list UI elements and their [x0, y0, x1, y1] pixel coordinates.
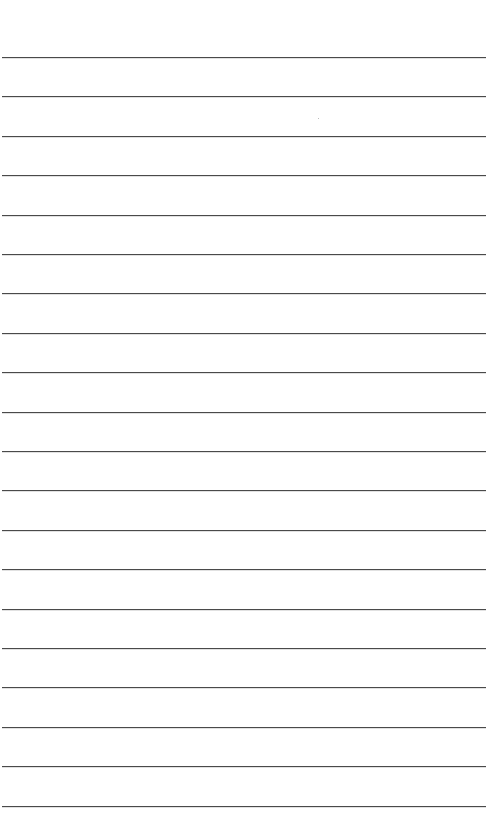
ruled-line	[2, 451, 486, 452]
ruled-line	[2, 215, 486, 216]
ruled-line	[2, 293, 486, 294]
ruled-line	[2, 96, 486, 97]
ruled-line	[2, 687, 486, 688]
ruled-line	[2, 648, 486, 649]
ruled-line	[2, 333, 486, 334]
ruled-line	[2, 806, 486, 807]
ruled-line	[2, 254, 486, 255]
ruled-line	[2, 609, 486, 610]
ruled-line	[2, 412, 486, 413]
ruled-line	[2, 569, 486, 570]
ruled-line	[2, 766, 486, 767]
ruled-line	[2, 727, 486, 728]
ruled-line	[2, 372, 486, 373]
ruled-line	[2, 57, 486, 58]
ruled-line	[2, 136, 486, 137]
scan-speck	[318, 118, 319, 119]
ruled-line	[2, 490, 486, 491]
ruled-line	[2, 175, 486, 176]
ruled-line	[2, 530, 486, 531]
